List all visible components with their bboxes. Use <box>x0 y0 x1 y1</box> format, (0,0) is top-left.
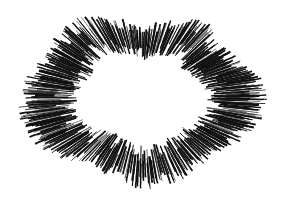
radial-burst-illustration <box>0 0 285 200</box>
burst-ray <box>218 96 260 97</box>
burst-ray <box>146 31 147 46</box>
burst-ray <box>216 99 267 100</box>
artwork-canvas <box>0 0 285 200</box>
burst-ray <box>140 30 141 46</box>
